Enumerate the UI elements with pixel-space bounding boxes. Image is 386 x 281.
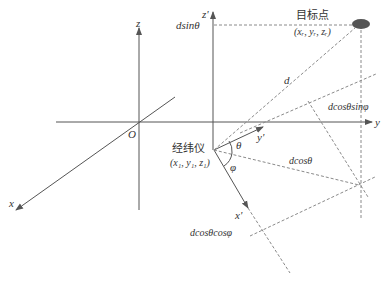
theta-label: θ xyxy=(236,139,242,151)
x-axis xyxy=(16,97,175,210)
z-prime-label: z' xyxy=(201,8,209,20)
d-label: d xyxy=(284,74,290,86)
origin-label: O xyxy=(128,128,136,140)
target-point-coords: (xᵣ, yᵣ, zᵣ) xyxy=(294,26,331,38)
x-prime-extension xyxy=(248,208,290,273)
theodolite-geometry-diagram: O x y z z' y' x' θ φ 目标点 xyxy=(0,0,386,281)
local-axes: z' y' x' xyxy=(201,8,265,221)
theodolite-coords: (x₁, y₁, z₁) xyxy=(170,157,211,169)
d-cos-theta-label: dcosθ xyxy=(289,155,312,166)
x-prime-label: x' xyxy=(234,209,243,221)
x-parallel-line-right xyxy=(308,101,368,197)
d-cos-theta-cos-phi-label: dcosθcosφ xyxy=(190,227,233,238)
z-axis-label: z xyxy=(135,17,141,29)
target-point-marker xyxy=(352,19,370,29)
y-axis-label: y xyxy=(374,116,380,128)
distance-line-d xyxy=(214,28,355,150)
theodolite-name: 经纬仪 xyxy=(172,142,205,155)
d-sin-theta-label: dsinθ xyxy=(176,19,200,31)
x-axis-label: x xyxy=(8,197,14,209)
global-axes: O x y z xyxy=(8,17,380,210)
y-parallel-line-lower xyxy=(250,177,375,236)
target-point-name: 目标点 xyxy=(296,8,329,22)
y-prime-label: y' xyxy=(256,131,265,143)
phi-label: φ xyxy=(230,161,236,173)
d-cos-theta-sin-phi-label: dcosθsinφ xyxy=(328,101,369,112)
